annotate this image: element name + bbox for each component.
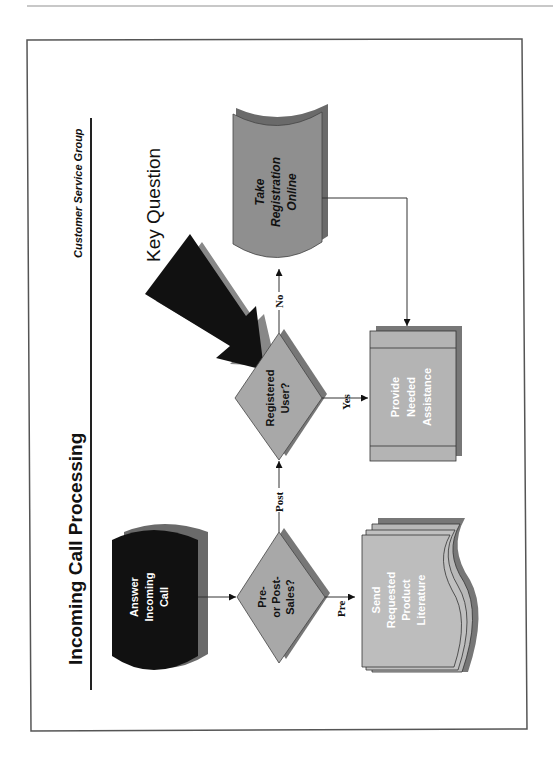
svg-text:Requested: Requested — [385, 572, 397, 628]
svg-text:User?: User? — [279, 382, 291, 413]
edge-label-no: No — [273, 294, 285, 308]
edge-label-yes: Yes — [340, 393, 352, 410]
svg-text:Send: Send — [370, 587, 382, 614]
node-provide-needed-assistance[interactable]: Provide Needed Assistance — [370, 326, 462, 461]
node-pre-or-post-sales[interactable]: Pre- or Post- Sales? — [237, 528, 330, 663]
svg-text:Call: Call — [158, 587, 170, 607]
page-title: Incoming Call Processing — [65, 433, 86, 665]
svg-text:Product: Product — [400, 579, 412, 621]
svg-text:Registration: Registration — [269, 157, 283, 227]
svg-text:Sales?: Sales? — [284, 579, 296, 615]
svg-text:Online: Online — [285, 173, 299, 211]
node-answer-incoming-call[interactable]: Answer Incoming Call — [112, 524, 208, 670]
page-subtitle: Customer Service Group — [72, 128, 84, 258]
flowchart: Incoming Call Processing Customer Servic… — [0, 0, 553, 768]
svg-text:Needed: Needed — [405, 377, 417, 417]
svg-text:Registered: Registered — [264, 370, 276, 427]
svg-text:Take: Take — [253, 178, 267, 205]
svg-text:Assistance: Assistance — [421, 368, 433, 426]
edge-take-registration-to-assistance — [322, 198, 407, 326]
title-group: Incoming Call Processing Customer Servic… — [65, 118, 91, 690]
svg-text:Literature: Literature — [415, 575, 427, 626]
svg-text:Incoming: Incoming — [143, 573, 155, 622]
key-question-label: Key Question — [143, 148, 164, 262]
edge-label-pre: Pre — [335, 601, 347, 617]
svg-text:or Post-: or Post- — [270, 576, 282, 618]
svg-text:Provide: Provide — [389, 377, 401, 417]
svg-text:Pre-: Pre- — [256, 586, 268, 608]
node-send-requested-literature[interactable]: Send Requested Product Literature — [362, 518, 479, 672]
node-take-registration-online[interactable]: Take Registration Online — [233, 104, 328, 258]
svg-text:Answer: Answer — [128, 576, 140, 616]
edge-label-post: Post — [273, 492, 285, 513]
